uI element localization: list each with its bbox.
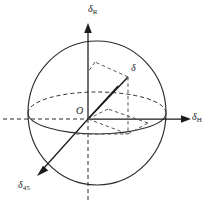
axis-dR-arrowhead: [84, 23, 92, 33]
equatorial-proj-edge-d: [88, 109, 108, 119]
axis-label-delta-H: δH: [192, 112, 202, 122]
equatorial-proj-edge-a: [88, 119, 128, 134]
poincare-sphere-figure: δR δH δ45 O δ: [0, 0, 214, 210]
axis-label-delta-R: δR: [88, 4, 97, 14]
poincare-sphere-graphic: [0, 0, 214, 210]
axis-dH-arrowhead: [181, 115, 191, 123]
delta-axis-edge-dashed: [88, 62, 95, 72]
delta-vector-line: [88, 77, 128, 119]
axis-label-delta-45: δ45: [18, 180, 30, 190]
delta-top-edge-dashed: [95, 62, 128, 77]
origin-label: O: [76, 106, 83, 116]
axis-d45-line: [44, 119, 88, 168]
equator-front-solid: [28, 113, 166, 134]
axis-d45-arrowhead: [37, 166, 48, 176]
delta-vector-label: δ: [131, 63, 136, 73]
